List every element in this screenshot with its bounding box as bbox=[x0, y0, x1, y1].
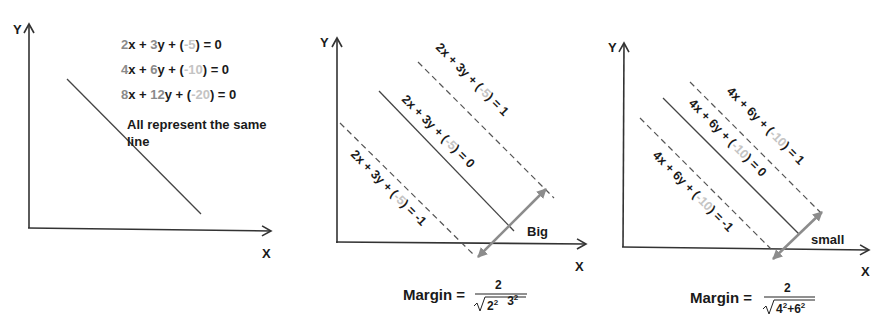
svg-text:2: 2 bbox=[784, 281, 791, 295]
small-margin-formula: Margin = 2 42+62 bbox=[690, 281, 815, 316]
big-margin-arrow bbox=[478, 189, 546, 257]
right-lower-equation: 4x + 6y + (-10) = -1 bbox=[650, 148, 736, 234]
middle-y-label: Y bbox=[320, 35, 329, 50]
svm-margin-diagram: Y X 2x + 3y + (-5) = 0 4x + 6y + (-10) =… bbox=[0, 0, 890, 333]
small-label: small bbox=[811, 232, 844, 247]
svg-text:Margin =: Margin = bbox=[690, 289, 752, 306]
middle-solid-equation: 2x + 3y + (-5) = 0 bbox=[399, 92, 477, 170]
big-label: Big bbox=[527, 224, 548, 239]
right-y-axis bbox=[623, 43, 624, 247]
note-line-2: line bbox=[127, 134, 149, 149]
middle-solid-line bbox=[379, 91, 514, 231]
panel-right: Y X small 4x + 6y + (-10) = 1 4x + 6y + … bbox=[608, 40, 870, 316]
svg-text:Margin =: Margin = bbox=[403, 286, 465, 303]
right-x-axis bbox=[622, 247, 869, 250]
right-lower-dashed-line bbox=[640, 118, 771, 249]
right-upper-dashed-line bbox=[690, 82, 823, 215]
middle-lower-equation: 2x + 3y + (-5) = -1 bbox=[348, 147, 429, 228]
note-line-1: All represent the same bbox=[127, 117, 266, 132]
panel-middle: Y X Big 2x + 3y + (-5) = 1 2x + 3y + (-5… bbox=[320, 35, 586, 313]
svg-text:42+62: 42+62 bbox=[776, 301, 806, 316]
panel-left: Y X 2x + 3y + (-5) = 0 4x + 6y + (-10) =… bbox=[13, 22, 271, 261]
svg-text:2: 2 bbox=[495, 278, 502, 292]
right-solid-line bbox=[663, 98, 799, 234]
equation-1: 2x + 3y + (-5) = 0 bbox=[121, 37, 222, 52]
equation-3: 8x + 12y + (-20) = 0 bbox=[121, 87, 236, 102]
middle-upper-equation: 2x + 3y + (-5) = 1 bbox=[433, 40, 511, 118]
left-x-label: X bbox=[262, 246, 271, 261]
right-x-label: X bbox=[861, 264, 870, 279]
equation-2: 4x + 6y + (-10) = 0 bbox=[121, 62, 229, 77]
left-y-label: Y bbox=[13, 22, 22, 37]
left-x-axis bbox=[28, 228, 271, 231]
right-y-label: Y bbox=[608, 40, 617, 55]
svg-text:2232: 2232 bbox=[487, 293, 519, 313]
middle-x-label: X bbox=[575, 259, 584, 274]
big-margin-formula: Margin = 2 2232 bbox=[403, 278, 527, 313]
